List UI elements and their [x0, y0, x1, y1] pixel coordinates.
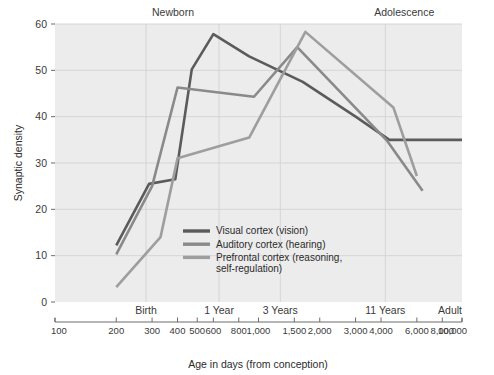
y-axis-tick-label: 20	[35, 203, 47, 215]
x-axis-tick-label: 300	[144, 325, 160, 336]
x-axis-tick-label: 1,500	[282, 325, 306, 336]
stage-label: 3 Years	[263, 304, 298, 316]
y-axis-tick-label: 10	[35, 249, 47, 261]
legend-label-0: Visual cortex (vision)	[216, 225, 308, 236]
x-axis-tick-label: 3,000	[344, 325, 368, 336]
x-axis-tick-label: 4,000	[369, 325, 393, 336]
y-axis-tick-label: 50	[35, 64, 47, 76]
x-axis-tick-label: 10,000	[438, 325, 467, 336]
y-axis-tick-label: 0	[41, 296, 47, 308]
stage-label: 1 Year	[204, 304, 234, 316]
stage-label: 11 Years	[365, 304, 405, 316]
x-axis-tick-label: 800	[231, 325, 247, 336]
legend-label-1: Auditory cortex (hearing)	[216, 239, 326, 250]
x-axis-tick-label: 600	[205, 325, 221, 336]
x-axis-tick-label: 6,000	[405, 325, 429, 336]
synaptic-density-chart: 0102030405060 NewbornAdolescence Birth1 …	[0, 0, 494, 375]
x-axis-tick-label: 2,000	[308, 325, 332, 336]
era-label: Adolescence	[374, 6, 434, 18]
x-axis-tick-label: 200	[108, 325, 124, 336]
x-axis-tick-label: 100	[51, 325, 67, 336]
stage-label: Birth	[135, 304, 157, 316]
y-axis-tick-label: 40	[35, 110, 47, 122]
x-axis-tick-label: 400	[170, 325, 186, 336]
x-axis-title: Age in days (from conception)	[188, 358, 327, 370]
legend-label-2: Prefrontal cortex (reasoning,	[216, 252, 342, 263]
stage-label: Adult	[438, 304, 462, 316]
y-axis-tick-label: 30	[35, 157, 47, 169]
legend-label-3: self-regulation)	[216, 263, 282, 274]
y-axis-tick-label: 60	[35, 18, 47, 30]
era-label: Newborn	[152, 6, 194, 18]
x-axis-tick-label: 1,000	[247, 325, 271, 336]
y-axis-title: Synaptic density	[12, 124, 24, 201]
chart-canvas: 0102030405060 NewbornAdolescence Birth1 …	[0, 0, 494, 375]
x-axis-tick-label: 500	[189, 325, 205, 336]
